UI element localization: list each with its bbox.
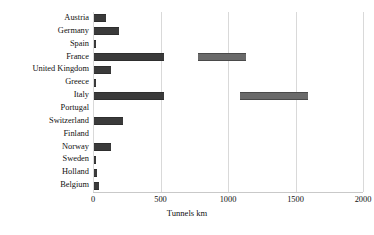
y-axis-label: Portugal xyxy=(0,102,89,115)
x-axis-tick-labels: 0500100015002000 xyxy=(0,194,374,208)
y-axis-category-labels: AustriaGermanySpainFranceUnited KingdomG… xyxy=(0,12,89,192)
chart-row xyxy=(93,128,363,141)
chart-row xyxy=(93,141,363,154)
bar xyxy=(94,92,164,100)
y-axis-label: Switzerland xyxy=(0,115,89,128)
plot-area xyxy=(93,12,363,192)
bar xyxy=(94,117,123,125)
x-tick-label: 0 xyxy=(91,194,95,206)
y-axis-label: Greece xyxy=(0,76,89,89)
y-axis-label: Norway xyxy=(0,141,89,154)
y-axis-label: France xyxy=(0,51,89,64)
bar xyxy=(94,66,111,74)
chart-row xyxy=(93,89,363,102)
chart-row xyxy=(93,51,363,64)
horizontal-bar-chart: AustriaGermanySpainFranceUnited KingdomG… xyxy=(0,0,374,235)
bar xyxy=(94,27,119,35)
bar-secondary-segment xyxy=(198,53,246,61)
bar xyxy=(94,156,96,164)
chart-row xyxy=(93,12,363,25)
bar xyxy=(94,169,97,177)
bar xyxy=(94,79,96,87)
chart-row xyxy=(93,179,363,192)
chart-row xyxy=(93,153,363,166)
x-tick-label: 2000 xyxy=(355,194,372,206)
y-axis-label: Spain xyxy=(0,38,89,51)
chart-row xyxy=(93,102,363,115)
x-tick-label: 1500 xyxy=(287,194,304,206)
y-axis-label: Holland xyxy=(0,166,89,179)
chart-row xyxy=(93,76,363,89)
bar xyxy=(94,40,96,48)
y-axis-label: Italy xyxy=(0,89,89,102)
bar xyxy=(94,143,111,151)
y-axis-label: Finland xyxy=(0,128,89,141)
bar-secondary-segment xyxy=(240,92,308,100)
y-axis-label: Germany xyxy=(0,25,89,38)
bar xyxy=(94,182,99,190)
x-tick-label: 500 xyxy=(154,194,167,206)
y-axis-label: Austria xyxy=(0,12,89,25)
x-tick-label: 1000 xyxy=(220,194,237,206)
y-axis-label: United Kingdom xyxy=(0,63,89,76)
bar xyxy=(94,53,164,61)
y-axis-label: Sweden xyxy=(0,153,89,166)
chart-row xyxy=(93,38,363,51)
x-axis-line xyxy=(93,192,363,193)
x-axis-title: Tunnels km xyxy=(0,208,374,218)
bar xyxy=(94,14,106,22)
chart-row xyxy=(93,115,363,128)
chart-row xyxy=(93,63,363,76)
y-axis-label: Belgium xyxy=(0,179,89,192)
gridline xyxy=(363,12,364,192)
chart-row xyxy=(93,166,363,179)
chart-row xyxy=(93,25,363,38)
